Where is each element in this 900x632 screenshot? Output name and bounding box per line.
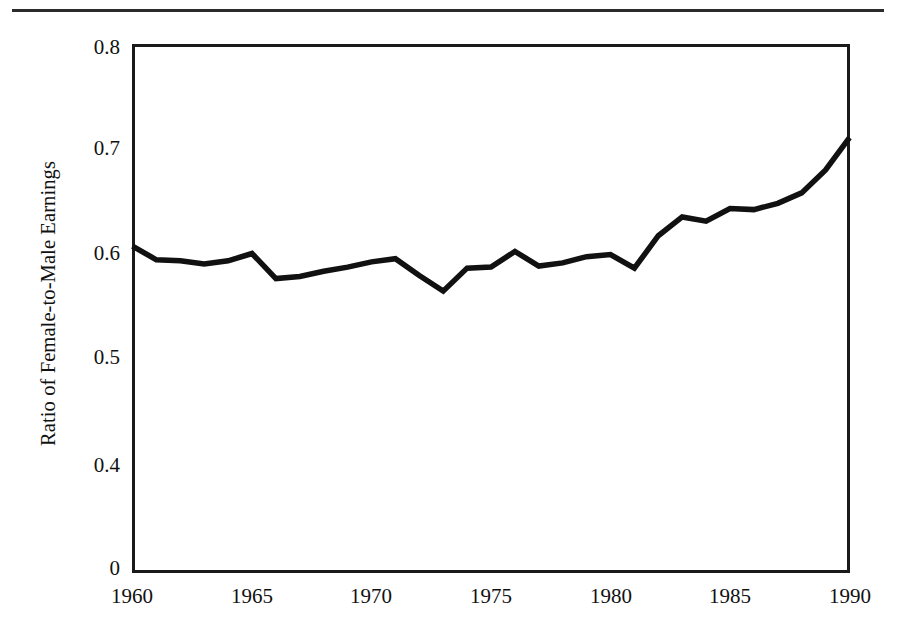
- data-series-line: [133, 138, 850, 292]
- x-tick-label-2: 1970: [316, 586, 426, 607]
- x-tick-label-0: 1960: [77, 586, 187, 607]
- x-tick-label-4: 1980: [556, 586, 666, 607]
- x-tick-label-5: 1985: [675, 586, 785, 607]
- figure-container: Ratio of Female-to-Male Earnings 0.8 0.7…: [0, 0, 900, 632]
- x-tick-label-1: 1965: [197, 586, 307, 607]
- chart-plot-area: [0, 0, 900, 632]
- x-tick-label-6: 1990: [795, 586, 900, 607]
- x-tick-label-3: 1975: [436, 586, 546, 607]
